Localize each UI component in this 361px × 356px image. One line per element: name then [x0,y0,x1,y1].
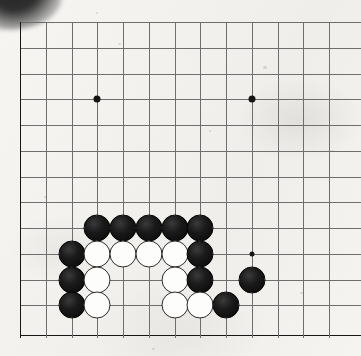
black-stone-c9-r10[interactable] [238,266,265,293]
star-point-upper-left [94,96,101,103]
black-stone-c3-r8[interactable] [84,215,111,242]
star-point-upper-right [248,96,255,103]
black-stone-c7-r8[interactable] [187,215,214,242]
white-stone-c5-r9[interactable] [135,240,162,267]
gridline-vertical-4 [123,22,124,338]
black-stone-c6-r8[interactable] [161,215,188,242]
white-stone-c7-r11[interactable] [187,292,214,319]
white-stone-c3-r10[interactable] [84,266,111,293]
white-stone-c6-r9[interactable] [161,240,188,267]
gridline-vertical-11 [303,22,304,338]
white-stone-c6-r10[interactable] [161,266,188,293]
black-stone-c8-r11[interactable] [213,292,240,319]
black-stone-c5-r8[interactable] [135,215,162,242]
black-stone-c7-r9[interactable] [187,240,214,267]
gridline-vertical-12 [329,22,330,338]
black-stone-c7-r10[interactable] [187,266,214,293]
black-stone-c2-r11[interactable] [58,292,85,319]
white-stone-c3-r11[interactable] [84,292,111,319]
black-stone-c2-r10[interactable] [58,266,85,293]
star-point-lower-right [249,251,254,256]
scanned-go-diagram: Go board diagram Scanned go (baduk) boar… [0,0,361,356]
gridline-vertical-8 [226,22,227,338]
gridline-vertical-0 [20,22,21,338]
go-board[interactable] [0,0,361,356]
black-stone-c4-r8[interactable] [110,215,137,242]
white-stone-c3-r9[interactable] [84,240,111,267]
white-stone-c6-r11[interactable] [161,292,188,319]
black-stone-c2-r9[interactable] [58,240,85,267]
gridline-vertical-1 [46,22,47,338]
white-stone-c4-r9[interactable] [110,240,137,267]
gridline-vertical-10 [278,22,279,338]
gridline-vertical-5 [149,22,150,338]
